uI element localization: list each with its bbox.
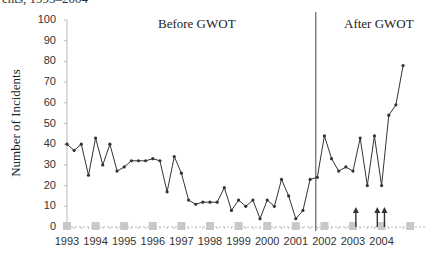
data-point [287, 194, 290, 197]
data-point [187, 198, 190, 201]
data-point [216, 201, 219, 204]
data-point [87, 174, 90, 177]
data-point [237, 198, 240, 201]
arrow-up-icon [353, 207, 359, 213]
data-point [273, 205, 276, 208]
baseline-marker [292, 222, 300, 230]
data-point [80, 143, 83, 146]
data-point [351, 170, 354, 173]
data-point [101, 163, 104, 166]
data-point [94, 136, 97, 139]
data-point [366, 184, 369, 187]
data-point [337, 170, 340, 173]
data-point [223, 186, 226, 189]
data-point [387, 114, 390, 117]
data-point [323, 134, 326, 137]
data-point [309, 178, 312, 181]
data-point [316, 176, 319, 179]
data-point [201, 201, 204, 204]
baseline-marker [92, 222, 100, 230]
baseline-marker [263, 222, 271, 230]
baseline-marker [120, 222, 128, 230]
baseline-marker [177, 222, 185, 230]
baseline-marker [406, 222, 414, 230]
baseline-marker [63, 222, 71, 230]
data-point [401, 64, 404, 67]
data-point [294, 217, 297, 220]
data-point [301, 209, 304, 212]
data-point [251, 198, 254, 201]
data-point [359, 136, 362, 139]
data-point [394, 103, 397, 106]
data-point [380, 184, 383, 187]
data-point [158, 159, 161, 162]
data-point [208, 201, 211, 204]
data-point [108, 143, 111, 146]
baseline-marker [320, 222, 328, 230]
data-point [137, 159, 140, 162]
data-point [230, 209, 233, 212]
baseline-marker [206, 222, 214, 230]
data-point [330, 157, 333, 160]
data-point [344, 165, 347, 168]
series-line [67, 66, 403, 219]
data-point [151, 157, 154, 160]
data-point [373, 134, 376, 137]
data-point [258, 217, 261, 220]
baseline-marker [235, 222, 243, 230]
arrow-up-icon [381, 207, 387, 213]
data-point [173, 155, 176, 158]
data-point [65, 143, 68, 146]
line-chart-plot [0, 0, 430, 260]
data-point [244, 205, 247, 208]
data-point [166, 190, 169, 193]
data-point [280, 178, 283, 181]
baseline-marker [149, 222, 157, 230]
data-point [266, 198, 269, 201]
data-point [73, 149, 76, 152]
data-point [144, 159, 147, 162]
data-point [130, 159, 133, 162]
arrow-up-icon [374, 207, 380, 213]
data-point [194, 203, 197, 206]
data-point [123, 165, 126, 168]
data-point [180, 172, 183, 175]
data-point [115, 170, 118, 173]
